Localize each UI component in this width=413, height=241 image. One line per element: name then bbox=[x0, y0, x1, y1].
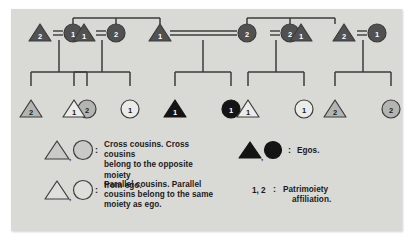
g1-n5-number: 1 bbox=[158, 32, 162, 41]
legend-egos-colon: : bbox=[288, 145, 291, 155]
legend-ego-triangle-icon bbox=[239, 142, 261, 158]
marriage-link-center bbox=[170, 31, 237, 35]
sibling-bar-right bbox=[247, 18, 335, 24]
legend-cross-colon: : bbox=[95, 145, 98, 155]
descent-group-4 bbox=[335, 40, 391, 86]
legend-parallel-text: Parallel cousins. Parallel cousins belon… bbox=[104, 180, 219, 211]
descent-group-3 bbox=[248, 40, 304, 86]
g2-cross-triangle-2-left: 2 bbox=[20, 100, 42, 117]
g1-circle-2-a: 2 bbox=[107, 24, 125, 42]
g2-ego-triangle-1: 1 bbox=[164, 100, 186, 117]
legend-cross-triangle-icon bbox=[45, 141, 69, 159]
descent-group-ego bbox=[175, 40, 231, 86]
g2-n3-number: 1 bbox=[72, 108, 76, 117]
kinship-diagram-figure: 2 1 1 2 1 2 2 bbox=[0, 0, 413, 241]
marriage-link-1 bbox=[53, 31, 63, 35]
descent-group-1 bbox=[31, 40, 87, 86]
g2-n6-number: 1 bbox=[229, 106, 233, 115]
legend-parallel-comma: , bbox=[69, 193, 71, 202]
g1-n7-number: 2 bbox=[288, 30, 292, 39]
legend-parallel-circle-icon bbox=[74, 181, 93, 200]
g2-cross-circle-2-right: 2 bbox=[382, 100, 400, 118]
marriage-link-2 bbox=[96, 31, 106, 35]
g2-n5-number: 1 bbox=[173, 108, 177, 117]
legend-cross-line-2: belong to the opposite moiety bbox=[104, 160, 219, 180]
g1-n4-number: 2 bbox=[114, 30, 118, 39]
legend-parallel-colon: : bbox=[95, 185, 98, 195]
g2-n2-number: 2 bbox=[85, 106, 89, 115]
legend-numbers-line-1: Patrimoiety bbox=[283, 185, 373, 195]
legend-parallel-line-2: cousins belong to the same bbox=[104, 190, 219, 200]
legend-egos-line-1: Egos. bbox=[297, 146, 377, 156]
legend-parallel-line-3: moiety as ego. bbox=[104, 200, 219, 210]
g1-n9-number: 2 bbox=[342, 32, 346, 41]
g1-circle-2-b: 2 bbox=[238, 24, 256, 42]
g1-n3-number: 1 bbox=[82, 32, 86, 41]
g1-triangle-2-left: 2 bbox=[29, 24, 51, 41]
g2-ego-circle-1: 1 bbox=[222, 100, 240, 118]
g2-parallel-circle-1-right: 1 bbox=[295, 100, 313, 118]
legend-numbers-colon: : bbox=[273, 184, 276, 194]
legend-numbers-key: 1, 2 bbox=[252, 186, 266, 195]
g2-parallel-circle-1-left: 1 bbox=[121, 100, 139, 118]
legend-cross-circle-icon bbox=[74, 141, 93, 160]
g2-n10-number: 2 bbox=[389, 106, 393, 115]
legend-numbers-line-2: affiliation. bbox=[283, 195, 373, 205]
g1-n2-number: 1 bbox=[71, 30, 75, 39]
g1-triangle-2-right: 2 bbox=[333, 24, 355, 41]
g2-n8-number: 1 bbox=[302, 106, 306, 115]
g2-n4-number: 1 bbox=[128, 106, 132, 115]
legend-egos-text: Egos. bbox=[297, 146, 377, 156]
descent-group-2 bbox=[74, 40, 130, 86]
legend-parallel-triangle-icon bbox=[45, 181, 69, 199]
g1-circle-1-b: 1 bbox=[368, 24, 386, 42]
legend-parallel-line-1: Parallel cousins. Parallel bbox=[104, 180, 219, 190]
legend-cross-comma: , bbox=[69, 153, 71, 162]
sibling-bar-left bbox=[73, 18, 160, 24]
g1-n6-number: 2 bbox=[245, 30, 249, 39]
legend-cross-line-1: Cross cousins. Cross cousins bbox=[104, 140, 219, 160]
g1-n1-number: 2 bbox=[38, 32, 42, 41]
g2-n7-number: 1 bbox=[246, 108, 250, 117]
legend-ego-circle-icon bbox=[265, 142, 282, 159]
g1-triangle-1-b: 1 bbox=[149, 24, 171, 41]
g2-n1-number: 2 bbox=[29, 108, 33, 117]
legend-egos-comma: , bbox=[261, 153, 263, 162]
legend-numbers-text: Patrimoiety affiliation. bbox=[283, 185, 373, 205]
marriage-link-4 bbox=[357, 31, 367, 35]
g1-n10-number: 1 bbox=[375, 30, 379, 39]
g2-n9-number: 2 bbox=[333, 108, 337, 117]
g1-n8-number: 1 bbox=[299, 32, 303, 41]
marriage-link-3 bbox=[270, 31, 280, 35]
g2-cross-triangle-2-right: 2 bbox=[324, 100, 346, 117]
